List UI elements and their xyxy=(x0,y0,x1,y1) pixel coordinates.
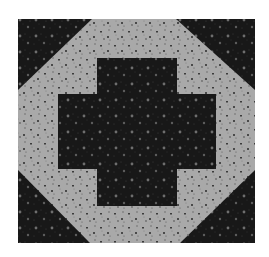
quilt-block-photo xyxy=(0,0,269,257)
cross-horizontal-arm xyxy=(58,94,216,169)
